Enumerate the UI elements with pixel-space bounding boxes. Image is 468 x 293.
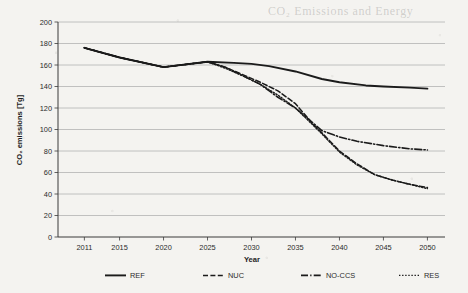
y-axis-title: CO₂ emissions [Tg]	[15, 94, 24, 165]
y-tick-label: 160	[40, 61, 52, 70]
chart-canvas: 020406080100120140160180200 201120152020…	[0, 0, 468, 293]
legend-label-ref: REF	[130, 271, 145, 280]
y-tick-label: 0	[48, 233, 52, 242]
x-tick-label: 2035	[287, 243, 303, 252]
y-tick-label: 100	[40, 125, 52, 134]
x-axis-tick-labels: 201120152020202520302035204020452050	[76, 243, 435, 252]
y-tick-label: 40	[44, 190, 52, 199]
x-tick-label: 2030	[243, 243, 259, 252]
y-tick-label: 200	[40, 18, 52, 27]
x-tick-label: 2050	[419, 243, 435, 252]
x-tick-label: 2040	[331, 243, 347, 252]
gridlines	[58, 22, 445, 216]
data-series	[84, 48, 427, 189]
x-tick-label: 2015	[111, 243, 127, 252]
legend-label-res: RES	[424, 271, 439, 280]
co2-emissions-line-chart: 020406080100120140160180200 201120152020…	[0, 0, 468, 293]
x-tick-label: 2025	[199, 243, 215, 252]
chart-legend: REFNUCNO-CCSRES	[105, 271, 439, 280]
legend-label-no-ccs: NO-CCS	[326, 271, 355, 280]
series-line-no-ccs	[84, 48, 427, 150]
series-line-res	[84, 48, 427, 189]
y-tick-label: 60	[44, 168, 52, 177]
series-line-nuc	[84, 48, 427, 188]
x-tick-label: 2045	[375, 243, 391, 252]
y-tick-label: 20	[44, 211, 52, 220]
x-axis-title: Year	[244, 255, 260, 264]
x-tick-label: 2011	[76, 243, 92, 252]
x-tick-label: 2020	[155, 243, 171, 252]
y-tick-label: 140	[40, 82, 52, 91]
legend-label-nuc: NUC	[228, 271, 245, 280]
y-tick-label: 180	[40, 39, 52, 48]
y-axis-tick-labels: 020406080100120140160180200	[40, 18, 52, 242]
y-tick-label: 120	[40, 104, 52, 113]
y-tick-label: 80	[44, 147, 52, 156]
